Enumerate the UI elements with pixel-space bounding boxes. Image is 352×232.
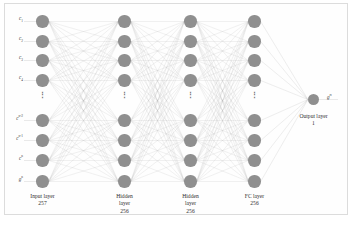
layer-caption-fc: FC layer256: [225, 193, 285, 208]
node-fc-2: [248, 54, 260, 66]
node-hidden1-7: [118, 175, 130, 187]
node-hidden1-6: [118, 154, 130, 166]
node-hidden1-2: [118, 54, 130, 66]
node-fc-5: [248, 134, 260, 146]
node-hidden2-3: [184, 74, 196, 86]
node-input-4: [36, 114, 48, 126]
caption-line: Input layer: [13, 193, 73, 200]
ellipsis-hidden1: ⋮: [119, 94, 131, 97]
node-input-2: [36, 54, 48, 66]
input-label-1: c2: [6, 35, 23, 43]
node-hidden2-0: [184, 15, 196, 27]
layer-caption-hidden2: Hiddenlayer256: [161, 193, 221, 215]
node-hidden2-6: [184, 154, 196, 166]
caption-line: 256: [225, 200, 285, 207]
input-label-6: cn: [6, 154, 23, 161]
ellipsis-hidden2: ⋮: [185, 94, 197, 97]
node-input-7: [36, 175, 48, 187]
node-input-6: [36, 154, 48, 166]
caption-line: 1: [284, 120, 344, 127]
node-hidden1-4: [118, 114, 130, 126]
node-fc-3: [248, 74, 260, 86]
node-hidden2-1: [184, 35, 196, 47]
caption-line: 256: [161, 208, 221, 215]
node-hidden1-5: [118, 134, 130, 146]
output-label: gn: [327, 92, 332, 100]
node-hidden2-5: [184, 134, 196, 146]
node-hidden1-0: [118, 15, 130, 27]
layer-caption-hidden1: Hiddenlayer256: [95, 193, 155, 215]
caption-line: 256: [95, 208, 155, 215]
caption-line: Hidden: [161, 193, 221, 200]
node-input-1: [36, 35, 48, 47]
layer-caption-input: Input layer257: [13, 193, 73, 208]
node-input-3: [36, 74, 48, 86]
node-input-0: [36, 15, 48, 27]
node-fc-1: [248, 35, 260, 47]
input-label-5: cn-1: [6, 134, 23, 141]
caption-line: Hidden: [95, 193, 155, 200]
input-label-7: gn: [6, 175, 23, 182]
layer-caption-output: Output layer1: [284, 113, 344, 128]
node-fc-0: [248, 15, 260, 27]
input-label-0: c1: [6, 15, 23, 23]
node-hidden2-4: [184, 114, 196, 126]
ellipsis-fc: ⋮: [249, 94, 261, 97]
ellipsis-input: ⋮: [37, 94, 49, 97]
caption-line: layer: [161, 200, 221, 207]
input-label-4: cn-2: [6, 114, 23, 121]
node-hidden2-7: [184, 175, 196, 187]
node-fc-7: [248, 175, 260, 187]
node-fc-6: [248, 154, 260, 166]
node-fc-4: [248, 114, 260, 126]
node-hidden2-2: [184, 54, 196, 66]
caption-line: 257: [13, 200, 73, 207]
caption-line: FC layer: [225, 193, 285, 200]
node-hidden1-3: [118, 74, 130, 86]
node-hidden1-1: [118, 35, 130, 47]
input-label-3: c4: [6, 74, 23, 82]
input-label-2: c3: [6, 54, 23, 62]
caption-line: layer: [95, 200, 155, 207]
node-input-5: [36, 134, 48, 146]
caption-line: Output layer: [284, 113, 344, 120]
